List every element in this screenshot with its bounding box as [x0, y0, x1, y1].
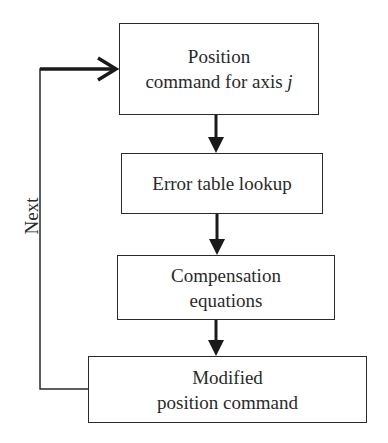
node-label-line2: command for axis j — [145, 69, 292, 94]
node-position-command: Position command for axis j — [119, 23, 319, 115]
arrow-down-icon — [209, 213, 225, 255]
arrow-down-icon — [208, 319, 224, 356]
feedback-loop-line — [40, 69, 116, 389]
axis-variable: j — [287, 71, 292, 92]
node-label-line2: position command — [157, 390, 298, 415]
node-label: Error table lookup — [152, 171, 291, 196]
node-label-line2: equations — [190, 288, 263, 313]
node-modified-position-command: Modified position command — [88, 356, 367, 423]
loop-label-next: Next — [20, 194, 44, 238]
node-label-line1: Modified — [192, 365, 263, 390]
node-label-line1: Position — [188, 44, 250, 69]
node-label-line1: Compensation — [171, 263, 281, 288]
arrow-down-icon — [208, 114, 224, 153]
node-error-table-lookup: Error table lookup — [121, 153, 323, 214]
node-compensation-equations: Compensation equations — [117, 255, 335, 320]
